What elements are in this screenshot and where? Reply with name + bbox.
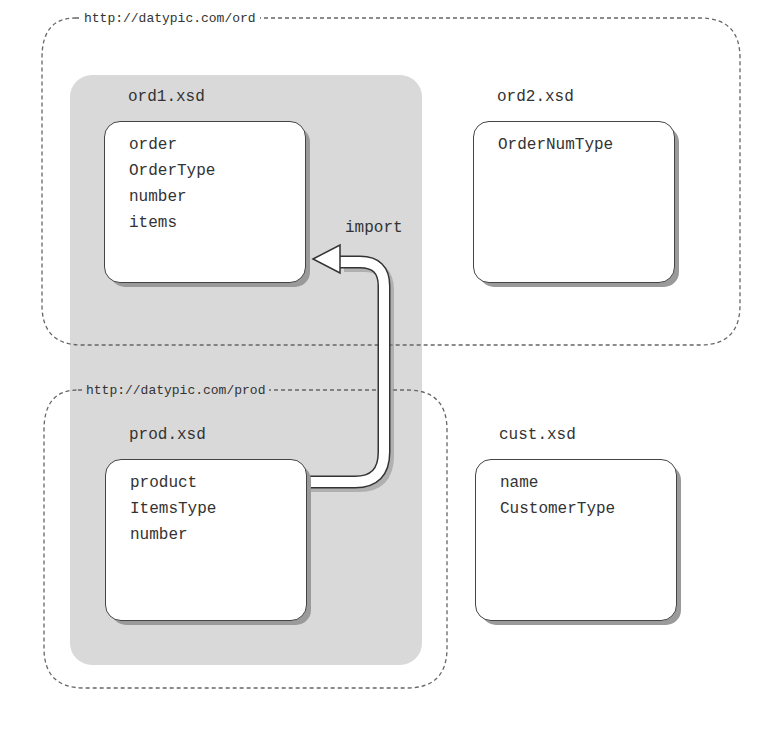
namespace-label-prod: http://datypic.com/prod — [82, 383, 269, 398]
schema-box-cust: name CustomerType — [475, 459, 677, 621]
component-name: name — [500, 470, 652, 496]
file-title-ord2: ord2.xsd — [497, 88, 574, 106]
namespace-label-ord: http://datypic.com/ord — [80, 11, 260, 26]
file-title-cust: cust.xsd — [499, 426, 576, 444]
component-number: number — [129, 184, 281, 210]
component-itemstype: ItemsType — [130, 496, 282, 522]
component-order: order — [129, 132, 281, 158]
component-number: number — [130, 522, 282, 548]
file-title-prod: prod.xsd — [129, 426, 206, 444]
component-customertype: CustomerType — [500, 496, 652, 522]
schema-box-ord1: order OrderType number items — [104, 121, 306, 283]
schema-box-ord2: OrderNumType — [473, 121, 675, 283]
component-ordernumtype: OrderNumType — [498, 132, 650, 158]
component-items: items — [129, 210, 281, 236]
component-product: product — [130, 470, 282, 496]
schema-box-prod: product ItemsType number — [105, 459, 307, 621]
file-title-ord1: ord1.xsd — [128, 88, 205, 106]
component-ordertype: OrderType — [129, 158, 281, 184]
import-label: import — [345, 219, 403, 237]
